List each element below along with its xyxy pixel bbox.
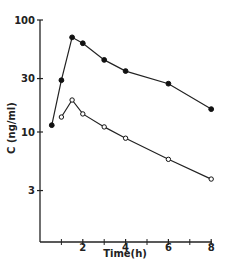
open-circle-marker xyxy=(70,98,74,102)
series-filled-circles xyxy=(49,35,213,128)
y-tick-label: 100 xyxy=(14,15,35,26)
x-tick-label: 2 xyxy=(79,242,86,253)
y-ticks: 10030103 xyxy=(14,15,43,197)
filled-circle-marker xyxy=(102,58,107,63)
filled-circle-marker xyxy=(70,35,75,40)
open-circle-marker xyxy=(209,177,213,181)
filled-circle-marker xyxy=(166,81,171,86)
axes xyxy=(40,20,212,242)
filled-circle-marker xyxy=(123,69,128,74)
open-circle-marker xyxy=(166,157,170,161)
data-series xyxy=(49,35,213,181)
open-circle-marker xyxy=(123,136,127,140)
open-circle-marker xyxy=(59,115,63,119)
y-tick-label: 10 xyxy=(21,127,35,138)
filled-circle-marker xyxy=(59,78,64,83)
series-line xyxy=(52,37,211,125)
open-circle-marker xyxy=(81,112,85,116)
y-tick-label: 3 xyxy=(28,185,35,196)
x-tick-label: 6 xyxy=(165,242,172,253)
x-tick-label: 8 xyxy=(208,242,215,253)
concentration-time-chart: 10030103 2468 Time(h) C (ng/ml) xyxy=(0,0,233,273)
y-tick-label: 30 xyxy=(21,73,35,84)
filled-circle-marker xyxy=(209,107,214,112)
open-circle-marker xyxy=(102,125,106,129)
filled-circle-marker xyxy=(80,41,85,46)
filled-circle-marker xyxy=(49,123,54,128)
y-axis-title: C (ng/ml) xyxy=(6,102,17,154)
x-axis-title: Time(h) xyxy=(103,248,147,259)
series-open-circles xyxy=(59,98,213,181)
